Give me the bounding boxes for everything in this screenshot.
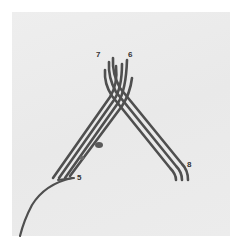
knot-blob	[95, 142, 103, 148]
label-5: 5	[77, 174, 81, 182]
cord-right-3	[113, 58, 188, 180]
label-6: 6	[128, 51, 132, 59]
cords-illustration	[0, 0, 235, 247]
cord-tail	[20, 178, 72, 236]
label-8: 8	[187, 161, 191, 169]
label-7: 7	[96, 51, 100, 59]
